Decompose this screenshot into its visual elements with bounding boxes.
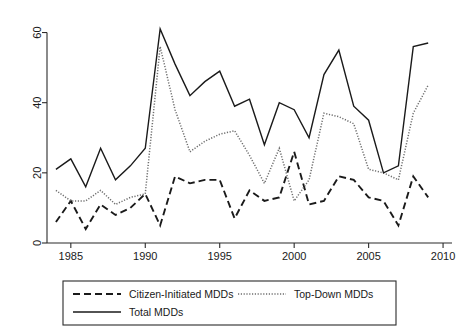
y-axis: 0204060 <box>31 26 47 246</box>
plot-series-group <box>56 29 428 229</box>
x-axis-tick-label: 1985 <box>59 250 83 262</box>
x-axis-tick-label: 2000 <box>282 250 306 262</box>
x-axis-tick-label: 1990 <box>133 250 157 262</box>
chart-legend: Citizen-Initiated MDDsTop-Down MDDsTotal… <box>63 281 396 325</box>
line-chart: 0204060 198519901995200020052010 Citizen… <box>0 0 457 333</box>
series-line-citizen-initiated-mdds <box>56 152 428 229</box>
chart-container: 0204060 198519901995200020052010 Citizen… <box>0 0 457 333</box>
x-axis-tick-label: 2010 <box>431 250 455 262</box>
y-axis-tick-label: 20 <box>31 167 43 179</box>
legend-label-total-mdds: Total MDDs <box>129 306 183 318</box>
x-axis-tick-label: 2005 <box>356 250 380 262</box>
y-axis-tick-label: 60 <box>31 26 43 38</box>
legend-label-citizen-initiated-mdds: Citizen-Initiated MDDs <box>129 288 233 300</box>
y-axis-tick-label: 40 <box>31 97 43 109</box>
legend-label-top-down-mdds: Top-Down MDDs <box>294 288 373 300</box>
series-line-total-mdds <box>56 29 428 187</box>
x-axis: 198519901995200020052010 <box>47 243 455 262</box>
x-axis-tick-label: 1995 <box>207 250 231 262</box>
y-axis-tick-label: 0 <box>31 240 43 246</box>
series-line-top-down-mdds <box>56 47 428 205</box>
